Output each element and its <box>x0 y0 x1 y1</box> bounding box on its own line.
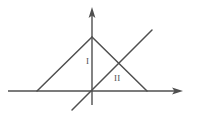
region-label-I: I <box>86 57 89 66</box>
rising-diagonal-line <box>72 30 152 110</box>
triangle-left-side <box>37 37 92 91</box>
figure-canvas <box>0 0 197 119</box>
geometry-figure: I II <box>0 0 197 119</box>
x-axis <box>8 88 183 95</box>
rising-diagonal <box>72 30 152 110</box>
region-label-II: II <box>114 74 120 83</box>
